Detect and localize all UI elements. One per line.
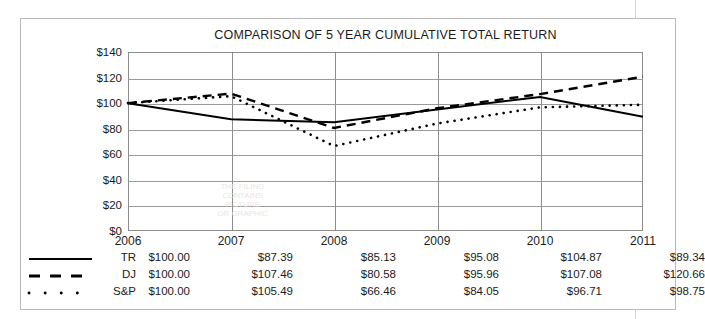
legend-value-cell: $107.08 — [522, 268, 602, 280]
legend-marker-dashed — [26, 267, 100, 284]
series-line-sandp — [128, 96, 643, 146]
legend-value-cell: $85.13 — [316, 251, 396, 263]
legend-value-cell: $95.96 — [419, 268, 499, 280]
x-tick-label: 2007 — [218, 234, 245, 248]
legend-value-cell: $107.46 — [213, 268, 293, 280]
y-tick-label: $140 — [74, 46, 122, 58]
legend-data-table: TR$100.00$87.39$85.13$95.08$104.87$89.34… — [26, 250, 646, 301]
y-tick-label: $60 — [74, 148, 122, 160]
legend-value-cell: $89.34 — [625, 251, 705, 263]
legend-value-cell: $104.87 — [522, 251, 602, 263]
legend-value-cell: $120.66 — [625, 268, 705, 280]
legend-value-cell: $100.00 — [110, 285, 190, 297]
x-tick-label: 2006 — [115, 234, 142, 248]
y-tick-label: $80 — [74, 123, 122, 135]
x-tick-label: 2008 — [321, 234, 348, 248]
y-tick-label: $100 — [74, 97, 122, 109]
legend-value-cell: $80.58 — [316, 268, 396, 280]
y-tick-label: $40 — [74, 174, 122, 186]
legend-value-cell: $100.00 — [110, 251, 190, 263]
y-axis: $0$20$40$60$80$100$120$140 — [72, 52, 122, 231]
legend-value-cell: $95.08 — [419, 251, 499, 263]
x-tick-label: 2010 — [527, 234, 554, 248]
legend-value-cell: $66.46 — [316, 285, 396, 297]
x-tick-label: 2011 — [630, 234, 656, 248]
legend-value-cell: $100.00 — [110, 268, 190, 280]
legend-row: S&P$100.00$105.49$66.46$84.05$96.71$98.7… — [26, 284, 646, 301]
legend-value-cell: $96.71 — [522, 285, 602, 297]
x-tick-label: 2009 — [424, 234, 451, 248]
legend-marker-dotted — [26, 284, 100, 301]
legend-value-cell: $98.75 — [625, 285, 705, 297]
series-line-tr — [128, 97, 643, 122]
legend-row: DJ$100.00$107.46$80.58$95.96$107.08$120.… — [26, 267, 646, 284]
legend-value-cell: $87.39 — [213, 251, 293, 263]
chart-title: COMPARISON OF 5 YEAR CUMULATIVE TOTAL RE… — [128, 28, 643, 42]
y-tick-label: $20 — [74, 199, 122, 211]
series-lines — [128, 52, 643, 231]
y-tick-label: $120 — [74, 72, 122, 84]
legend-value-cell: $84.05 — [419, 285, 499, 297]
x-axis: 200620072008200920102011 — [128, 234, 643, 250]
legend-value-cell: $105.49 — [213, 285, 293, 297]
legend-marker-solid — [26, 250, 100, 267]
legend-row: TR$100.00$87.39$85.13$95.08$104.87$89.34 — [26, 250, 646, 267]
